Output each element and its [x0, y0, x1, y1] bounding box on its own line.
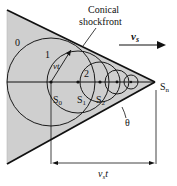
shockfront-label-line2: shockfront	[79, 16, 122, 27]
velocity-arrowhead-icon	[157, 41, 166, 49]
angle-label: θ	[125, 117, 130, 128]
source-label-sn: Sn	[160, 81, 170, 94]
wavefront-label-0: 0	[15, 37, 20, 48]
velocity-label: vs	[131, 30, 139, 44]
source-point-s4	[130, 81, 132, 83]
source-point-s1	[76, 80, 79, 83]
radius-label: vt	[53, 61, 60, 71]
mach-cone-diagram: Conical shockfront vs 0 1 2 vt S0 S1 S2 …	[0, 0, 177, 186]
source-point-s2	[98, 80, 101, 83]
source-point-s3	[116, 81, 119, 84]
wavefront-label-2: 2	[84, 68, 89, 79]
distance-arrowhead-left-icon	[52, 161, 58, 165]
wavefront-label-1: 1	[45, 49, 50, 60]
distance-label: vst	[98, 168, 108, 181]
shockfront-pointer	[83, 28, 96, 46]
shockfront-label-line1: Conical	[88, 4, 119, 15]
distance-arrowhead-right-icon	[149, 161, 155, 165]
